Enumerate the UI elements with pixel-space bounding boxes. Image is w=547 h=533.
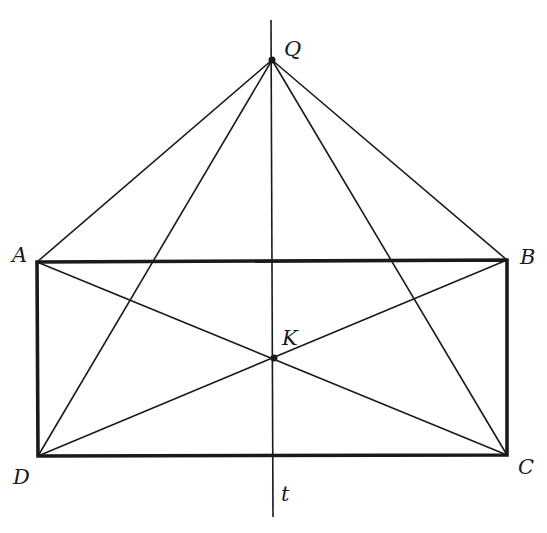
label-t: t <box>281 482 290 506</box>
segment-qa <box>37 60 272 262</box>
label-a: A <box>10 243 27 267</box>
point-k <box>271 355 278 362</box>
point-q <box>269 57 276 64</box>
label-c: C <box>518 455 534 479</box>
label-b: B <box>519 245 535 269</box>
label-q: Q <box>284 37 301 61</box>
label-k: K <box>281 326 299 350</box>
segment-qd <box>38 60 272 456</box>
geometry-figure: Q A B K D C t <box>0 0 547 533</box>
segment-qb <box>272 60 507 260</box>
segment-qc <box>272 60 507 455</box>
label-d: D <box>12 465 30 489</box>
line-t <box>271 20 273 517</box>
